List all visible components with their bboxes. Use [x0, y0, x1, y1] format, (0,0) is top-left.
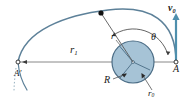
orbiting-body-point [98, 10, 103, 15]
velocity-vector-arrow-head [172, 13, 179, 20]
label-A-prime: A′ [14, 69, 21, 78]
label-A: A [173, 64, 179, 74]
figure-canvas [0, 0, 190, 111]
point-A-prime-marker [16, 60, 20, 64]
label-theta: θ [151, 32, 156, 42]
label-r0: r0 [148, 89, 154, 99]
label-r: r [111, 32, 115, 41]
r1-arrow-head-left [22, 60, 27, 64]
theta-arrow-head-right [166, 51, 171, 55]
label-r1: r1 [70, 44, 78, 57]
label-v0: v0 [168, 3, 176, 14]
label-R: R [104, 75, 110, 85]
orbital-trajectory-figure: r1 r θ v0 A A′ R r0 [0, 0, 190, 111]
